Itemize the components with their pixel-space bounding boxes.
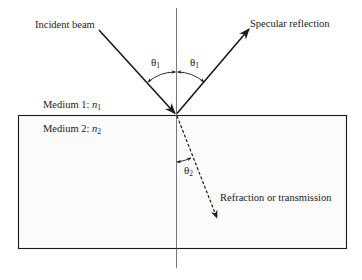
reflected-angle-arc [178, 72, 205, 82]
incident-angle-arc [148, 72, 176, 82]
reflection-refraction-diagram: Incident beam Specular reflection Refrac… [0, 0, 362, 280]
theta1-incident-label: θ1 [151, 56, 160, 70]
incident-beam-arrow [99, 30, 175, 114]
diagram-canvas: Incident beam Specular reflection Refrac… [0, 0, 362, 280]
specular-reflection-label: Specular reflection [250, 18, 330, 29]
refraction-label: Refraction or transmission [220, 192, 332, 203]
medium-2-region [19, 116, 347, 249]
theta1-reflected-label: θ1 [190, 56, 199, 70]
medium-1-label: Medium 1: n1 [43, 99, 101, 112]
reflected-beam-arrow [177, 29, 249, 114]
incident-beam-label: Incident beam [35, 19, 95, 30]
